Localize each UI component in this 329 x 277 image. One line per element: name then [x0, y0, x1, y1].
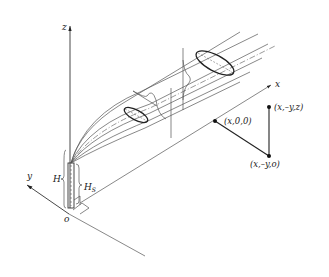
point-x-negy-o	[267, 154, 271, 158]
plume-diagram: z y x o H HS	[0, 0, 329, 277]
y-axis-label: y	[26, 171, 33, 181]
point-x00	[213, 119, 217, 123]
stack-height-label: HS	[83, 182, 96, 193]
coordinate-points: (x,0,0) (x,–y,z) (x,–y,o)	[213, 102, 303, 169]
plume	[71, 32, 275, 163]
y-axis: y	[26, 171, 69, 214]
label-x00: (x,0,0)	[224, 116, 252, 126]
z-axis-label: z	[61, 22, 67, 32]
origin-label: o	[64, 214, 70, 224]
z-axis: z	[61, 22, 70, 208]
point-x-negy-z	[267, 105, 271, 109]
x-axis-label: x	[275, 79, 280, 89]
ground-line	[69, 214, 145, 256]
effective-height-label: H	[52, 174, 61, 184]
label-x-negy-z: (x,–y,z)	[274, 102, 303, 112]
x-axis: x	[80, 79, 280, 203]
label-x-negy-o: (x,–y,o)	[250, 159, 280, 169]
right-angle-marker	[73, 203, 89, 214]
